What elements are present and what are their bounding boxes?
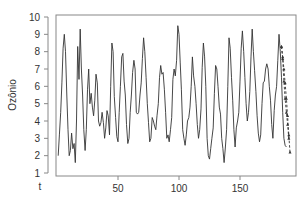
y-tick-label: 10 — [29, 12, 41, 23]
y-tick-label: 7 — [34, 64, 40, 75]
forecast-marker — [282, 68, 285, 71]
forecast-marker — [289, 151, 292, 154]
forecast-marker — [286, 123, 289, 126]
x-tick-label: 150 — [232, 183, 249, 194]
y-tick-label: 2 — [34, 150, 40, 161]
x-axis-label: t — [39, 181, 42, 192]
y-tick-label: 9 — [34, 29, 40, 40]
forecast-marker — [281, 55, 284, 58]
y-tick-label: 4 — [34, 116, 40, 127]
y-tick-label: 8 — [34, 46, 40, 57]
x-tick-label: 50 — [112, 183, 124, 194]
y-axis: 12345678910 — [29, 12, 48, 179]
x-axis: 50100150 — [112, 176, 248, 194]
plot-frame — [56, 15, 296, 176]
forecast-marker — [280, 45, 283, 48]
series-group — [58, 26, 291, 163]
y-tick-label: 3 — [34, 133, 40, 144]
y-tick-label: 1 — [34, 168, 40, 179]
y-tick-label: 5 — [34, 98, 40, 109]
ozone-time-series-chart: 12345678910 50100150 Ozônio t — [0, 0, 308, 202]
forecast-marker — [287, 133, 290, 136]
y-axis-label: Ozônio — [7, 79, 18, 111]
y-tick-label: 6 — [34, 81, 40, 92]
series-line-observed — [58, 26, 286, 163]
x-tick-label: 100 — [171, 183, 188, 194]
